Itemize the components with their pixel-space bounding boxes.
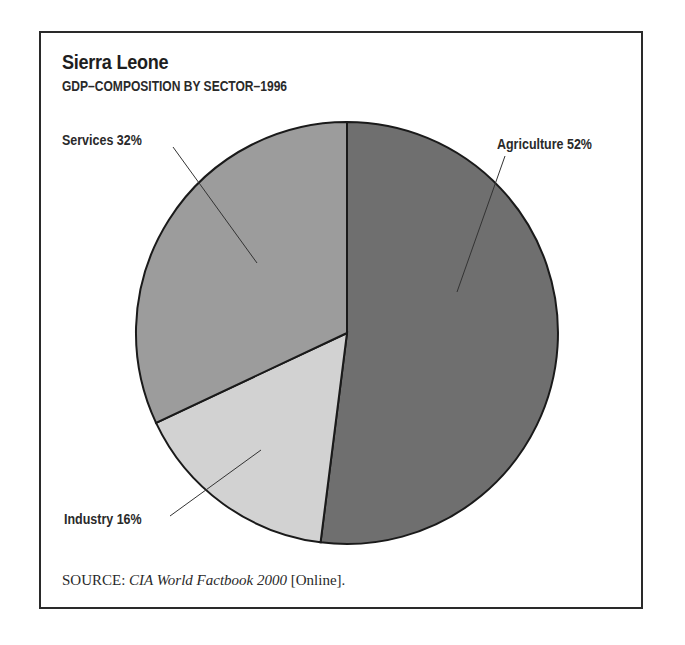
pie-chart (0, 0, 685, 645)
source-prefix: SOURCE: (62, 572, 125, 588)
slice-agriculture (321, 122, 558, 544)
label-agriculture: Agriculture 52% (497, 136, 592, 152)
label-industry: Industry 16% (64, 511, 142, 527)
source-title: CIA World Factbook 2000 (129, 572, 287, 588)
label-services: Services 32% (62, 132, 142, 148)
source-suffix: [Online]. (291, 572, 346, 588)
source-note: SOURCE: CIA World Factbook 2000 [Online]… (62, 572, 345, 589)
